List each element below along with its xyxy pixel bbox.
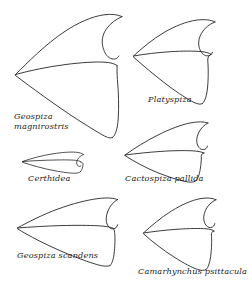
beak-drawing-certhidea <box>23 152 84 173</box>
finch-beak-illustration-plate: Geospiza magnirostris Platyspiza Certhid… <box>0 0 249 288</box>
beak-drawings-svg <box>0 0 249 288</box>
species-label-geospiza-scandens: Geospiza scandens <box>17 251 98 261</box>
beak-drawing-platyspiza <box>134 20 216 105</box>
species-label-geospiza-magnirostris: Geospiza magnirostris <box>14 112 69 131</box>
species-label-camarhynchus-psittacula: Camarhynchus psittacula <box>138 267 247 277</box>
beak-drawing-camarhynchus-psittacula <box>144 198 217 270</box>
species-label-platyspiza: Platyspiza <box>148 95 192 105</box>
species-label-cactospiza-pallida: Cactospiza pallida <box>125 174 204 184</box>
species-label-certhidea: Certhidea <box>28 174 71 184</box>
